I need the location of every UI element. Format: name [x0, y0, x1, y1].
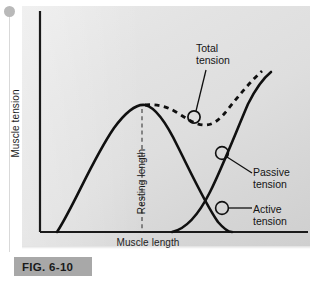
x-axis-label: Muscle length — [84, 237, 212, 248]
total-tension-leader-line — [196, 70, 206, 111]
total-tension-marker — [188, 111, 200, 123]
active-tension-label: Active tension — [253, 203, 287, 227]
y-axis-label: Muscle tension — [10, 81, 21, 167]
passive-tension-leader-line — [227, 157, 252, 173]
figure-caption: FIG. 6-10 — [14, 257, 92, 276]
figure-container: Muscle tension Muscle length Resting len… — [0, 0, 332, 285]
resting-length-label: Resting length — [136, 145, 147, 219]
passive-tension-label: Passive tension — [253, 166, 290, 190]
active-tension-marker — [216, 202, 229, 215]
total-tension-label: Total tension — [196, 42, 230, 66]
